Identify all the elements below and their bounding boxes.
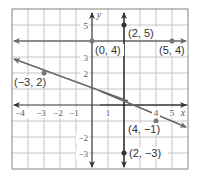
x-tick-neg4: −4 — [15, 108, 25, 118]
point-2-neg3 — [122, 151, 127, 156]
x-tick-4: 4 — [154, 108, 159, 118]
label-2-5: (2, 5) — [128, 27, 154, 39]
x-tick-5: 5 — [170, 108, 175, 118]
x-tick-neg2: −2 — [53, 108, 63, 118]
x-tick-neg3: −3 — [36, 108, 46, 118]
y-axis-label: y — [96, 9, 102, 20]
point-neg3-2 — [42, 71, 47, 76]
grid — [12, 9, 188, 169]
x-tick-neg1: −1 — [69, 108, 79, 118]
y-tick-3: 3 — [84, 53, 89, 63]
y-tick-neg2: −2 — [78, 133, 88, 143]
label-2-neg3: (2, −3) — [129, 147, 161, 159]
y-tick-neg3: −3 — [78, 149, 88, 159]
point-5-4 — [170, 39, 175, 44]
point-0-4 — [90, 39, 95, 44]
point-2-5 — [122, 23, 127, 28]
label-4-neg1: (4, −1) — [128, 123, 160, 135]
label-neg3-2: (−3, 2) — [14, 76, 46, 88]
x-tick-1: 1 — [106, 108, 111, 118]
y-tick-5: 5 — [84, 21, 89, 31]
x-axis-label: x — [180, 107, 186, 118]
coordinate-plane: −4 −3 −2 −1 1 4 5 x 5 3 2 −2 −3 y (0, 4)… — [0, 0, 200, 182]
y-tick-2: 2 — [84, 69, 89, 79]
label-5-4: (5, 4) — [159, 44, 185, 56]
label-0-4: (0, 4) — [95, 44, 121, 56]
